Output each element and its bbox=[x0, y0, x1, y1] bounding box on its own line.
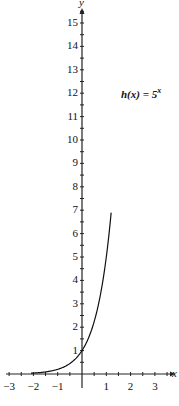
x-tick-label: 2 bbox=[123, 381, 139, 392]
y-tick-label: 4 bbox=[58, 274, 78, 285]
y-tick-label: 8 bbox=[58, 181, 78, 192]
x-tick-label: −1 bbox=[50, 381, 66, 392]
x-tick-label: 1 bbox=[98, 381, 114, 392]
y-tick-label: 11 bbox=[58, 111, 78, 122]
function-annotation: h(x) = 5x bbox=[121, 86, 161, 100]
y-axis-label: y bbox=[79, 0, 84, 8]
y-tick-label: 15 bbox=[58, 17, 78, 28]
chart: 123456789101112131415−3−2−1123 h(x) = 5x… bbox=[0, 0, 179, 406]
annotation-exponent: x bbox=[157, 86, 161, 95]
y-tick-label: 2 bbox=[58, 321, 78, 332]
y-tick-label: 9 bbox=[58, 157, 78, 168]
y-tick-label: 7 bbox=[58, 204, 78, 215]
y-tick-label: 14 bbox=[58, 40, 78, 51]
x-tick-label: −3 bbox=[1, 381, 17, 392]
y-tick-label: 5 bbox=[58, 251, 78, 262]
x-axis-label: x bbox=[172, 368, 177, 379]
y-tick-label: 10 bbox=[58, 134, 78, 145]
annotation-text: h(x) = 5 bbox=[121, 88, 157, 100]
x-tick-label: 3 bbox=[147, 381, 163, 392]
y-tick-label: 1 bbox=[58, 345, 78, 356]
x-tick-label: −2 bbox=[25, 381, 41, 392]
y-tick-label: 3 bbox=[58, 298, 78, 309]
y-tick-label: 12 bbox=[58, 87, 78, 98]
plot-area bbox=[0, 0, 179, 406]
y-tick-label: 6 bbox=[58, 228, 78, 239]
y-tick-label: 13 bbox=[58, 64, 78, 75]
